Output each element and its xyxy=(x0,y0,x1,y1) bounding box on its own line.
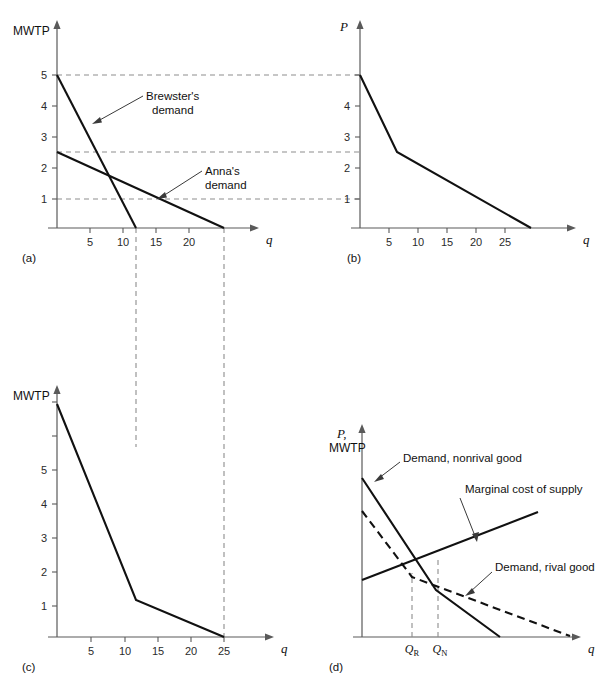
panel-d-xlabel-QN: QN xyxy=(433,642,448,658)
annas-demand-label-line2: demand xyxy=(205,179,247,191)
annas-demand-leader xyxy=(163,171,202,196)
panel-c-ylabel-4: 4 xyxy=(41,498,47,510)
panel-a-ylabel-2: 2 xyxy=(41,162,47,174)
demand-rival-label: Demand, rival good xyxy=(495,561,595,573)
brewsters-demand-label-line2: demand xyxy=(152,104,194,116)
panel-b-x-axis-title: q xyxy=(583,232,590,247)
panel-a-y-axis-title: MWTP xyxy=(13,24,50,38)
panel-a-label: (a) xyxy=(22,252,36,264)
panel-a-x-axis-arrow xyxy=(250,224,259,231)
panel-b-ylabel-1: 1 xyxy=(344,193,350,205)
figure-container: 1 2 3 4 5 5 10 15 20 MWTP q Brewster's d… xyxy=(0,0,603,684)
curve-vertical-sum-mwtp xyxy=(57,404,224,637)
panel-c-xlabel-15: 15 xyxy=(152,645,164,657)
panel-b-y-axis-arrow xyxy=(356,20,363,29)
curve-annas-demand xyxy=(57,152,224,228)
panel-a-y-axis-arrow xyxy=(53,20,60,29)
panel-a-xlabel-10: 10 xyxy=(117,236,129,248)
panel-b-xlabel-10: 10 xyxy=(412,236,424,248)
panel-a-ylabel-5: 5 xyxy=(41,69,47,81)
panel-c-ylabel-2: 2 xyxy=(41,566,47,578)
panel-d-y-axis-title-line1: P, xyxy=(336,426,347,441)
panel-b: 1 2 3 4 5 10 15 20 25 P q (b) xyxy=(339,19,590,264)
panel-c-ylabel-3: 3 xyxy=(41,532,47,544)
panel-d-y-axis-arrow xyxy=(358,424,365,433)
annas-demand-label-line1: Anna's xyxy=(205,165,240,177)
marginal-cost-label: Marginal cost of supply xyxy=(465,483,583,495)
panel-d: P, MWTP q QR QN Demand, nonrival good Ma… xyxy=(329,424,595,673)
panel-b-ylabel-2: 2 xyxy=(344,162,350,174)
curve-aggregate-demand xyxy=(360,75,531,228)
panel-a: 1 2 3 4 5 5 10 15 20 MWTP q Brewster's d… xyxy=(13,20,360,637)
panel-d-y-axis-title-line2: MWTP xyxy=(329,441,366,455)
panel-c-xlabel-25: 25 xyxy=(218,645,230,657)
panel-d-label: (d) xyxy=(329,661,343,673)
panel-b-ylabel-3: 3 xyxy=(344,131,350,143)
panel-a-xlabel-20: 20 xyxy=(183,236,195,248)
panel-c-ylabel-1: 1 xyxy=(41,600,47,612)
demand-rival-leader xyxy=(470,572,492,592)
panel-c-xlabel-20: 20 xyxy=(185,645,197,657)
panel-a-xlabel-5: 5 xyxy=(87,236,93,248)
curve-demand-nonrival-good xyxy=(362,478,500,637)
curve-demand-rival-good xyxy=(362,511,570,636)
panel-a-x-axis-title: q xyxy=(266,232,273,247)
panel-c-xlabel-10: 10 xyxy=(119,645,131,657)
panel-a-ylabel-3: 3 xyxy=(41,131,47,143)
brewsters-demand-arrowhead xyxy=(92,117,102,124)
demand-nonrival-label: Demand, nonrival good xyxy=(403,452,522,464)
panel-d-x-axis-title: q xyxy=(588,641,595,656)
panel-b-y-axis-title: P xyxy=(339,19,348,34)
panel-c-xlabel-5: 5 xyxy=(88,645,94,657)
panel-c-x-axis-arrow xyxy=(265,633,274,640)
panel-c-ylabel-5: 5 xyxy=(41,464,47,476)
brewsters-demand-label-line1: Brewster's xyxy=(146,90,200,102)
panel-c-label: (c) xyxy=(22,661,36,673)
annas-demand-arrowhead xyxy=(157,192,167,199)
panel-b-xlabel-25: 25 xyxy=(499,236,511,248)
panel-b-xlabel-15: 15 xyxy=(441,236,453,248)
panel-c-y-axis-title: MWTP xyxy=(13,389,50,403)
panel-a-ylabel-1: 1 xyxy=(41,193,47,205)
panel-b-xlabel-20: 20 xyxy=(470,236,482,248)
panel-c: 1 2 3 4 5 5 10 15 20 25 MWTP q (c) xyxy=(13,385,288,673)
panel-d-xlabel-QR: QR xyxy=(405,642,420,658)
panel-a-ylabel-4: 4 xyxy=(41,100,47,112)
panel-a-xlabel-15: 15 xyxy=(150,236,162,248)
marginal-cost-leader xyxy=(460,498,475,536)
panel-b-xlabel-5: 5 xyxy=(386,236,392,248)
panel-c-y-axis-arrow xyxy=(53,385,60,394)
four-panel-demand-figure: 1 2 3 4 5 5 10 15 20 MWTP q Brewster's d… xyxy=(0,0,603,684)
panel-b-x-axis-arrow xyxy=(567,224,576,231)
demand-nonrival-leader xyxy=(379,462,400,478)
panel-b-ylabel-4: 4 xyxy=(344,100,350,112)
brewsters-demand-leader xyxy=(98,96,143,121)
panel-c-x-axis-title: q xyxy=(281,641,288,656)
panel-d-x-axis-arrow xyxy=(572,633,581,640)
panel-b-label: (b) xyxy=(347,252,361,264)
